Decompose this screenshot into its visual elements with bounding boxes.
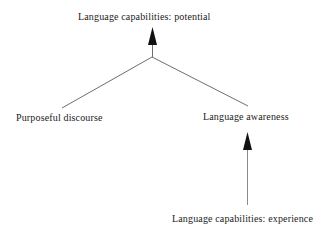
diagram-canvas: Language capabilities: potential Purpose… [0, 0, 333, 239]
arrowhead-up-potential [148, 27, 157, 45]
node-language-capabilities-potential: Language capabilities: potential [78, 11, 211, 23]
node-purposeful-discourse: Purposeful discourse [16, 112, 103, 124]
edge-awareness-to-vertex [152, 57, 248, 106]
edge-discourse-to-vertex [62, 57, 152, 108]
arrowhead-up-awareness [243, 132, 252, 150]
node-language-capabilities-experience: Language capabilities: experience [172, 213, 313, 225]
node-language-awareness: Language awareness [203, 111, 289, 123]
